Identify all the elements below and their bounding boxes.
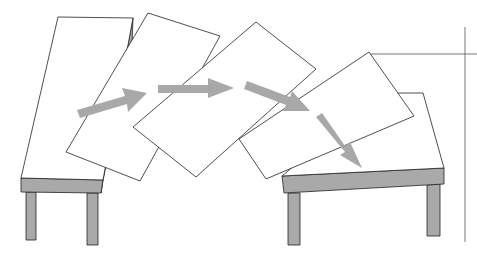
- right-table-leg-back: [427, 184, 440, 236]
- table-rotation-illustration: [0, 0, 477, 258]
- right-table-leg-front: [288, 193, 300, 245]
- left-table-leg-front: [26, 192, 36, 240]
- diagram-canvas: [0, 0, 477, 258]
- left-table-leg-back: [87, 193, 98, 245]
- left-table-apron: [21, 178, 103, 193]
